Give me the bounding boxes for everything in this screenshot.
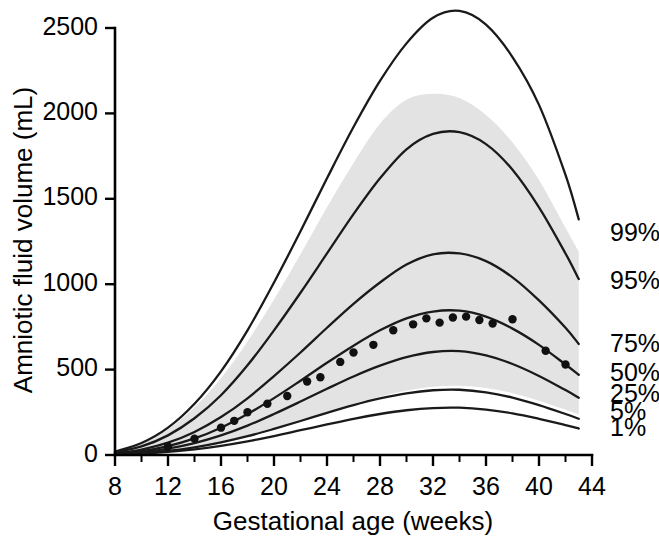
scatter-point — [369, 341, 377, 349]
percentile-label-1pct: 1% — [610, 413, 646, 441]
scatter-point — [389, 326, 397, 334]
percentile-label-75pct: 75% — [610, 329, 659, 357]
x-tick-label: 28 — [366, 472, 394, 500]
scatter-point — [349, 348, 357, 356]
scatter-point — [243, 408, 251, 416]
y-tick-label: 500 — [56, 353, 98, 381]
scatter-point — [336, 358, 344, 366]
x-tick-label: 44 — [578, 472, 606, 500]
y-tick-label: 2500 — [42, 12, 98, 40]
x-tick-label: 40 — [525, 472, 553, 500]
x-axis-title: Gestational age (weeks) — [213, 506, 493, 536]
scatter-point — [508, 315, 516, 323]
x-tick-label: 20 — [260, 472, 288, 500]
scatter-point — [422, 314, 430, 322]
scatter-point — [462, 312, 470, 320]
scatter-point — [409, 320, 417, 328]
percentile-label-99pct: 99% — [610, 218, 659, 246]
scatter-point — [303, 377, 311, 385]
scatter-point — [283, 392, 291, 400]
x-tick-label: 36 — [472, 472, 500, 500]
y-tick-label: 2000 — [42, 97, 98, 125]
x-tick-label: 8 — [108, 472, 122, 500]
scatter-point — [316, 373, 324, 381]
scatter-point — [230, 417, 238, 425]
y-tick-label: 1500 — [42, 182, 98, 210]
scatter-point — [475, 316, 483, 324]
y-tick-label: 1000 — [42, 268, 98, 296]
percentile-labels: 99%95%75%50%25%5%1% — [610, 218, 659, 441]
x-tick-label: 12 — [154, 472, 182, 500]
chart-figure: 050010001500200025008121620242832364044 … — [0, 0, 659, 542]
y-tick-label: 0 — [84, 439, 98, 467]
scatter-point — [217, 423, 225, 431]
scatter-point — [488, 319, 496, 327]
scatter-point — [263, 400, 271, 408]
scatter-point — [435, 318, 443, 326]
y-axis-title: Amniotic fluid volume (mL) — [8, 87, 38, 393]
percentile-label-95pct: 95% — [610, 266, 659, 294]
x-tick-label: 16 — [207, 472, 235, 500]
scatter-point — [164, 442, 172, 450]
scatter-point — [190, 435, 198, 443]
x-tick-label: 24 — [313, 472, 341, 500]
scatter-point — [561, 360, 569, 368]
scatter-point — [449, 313, 457, 321]
scatter-point — [541, 347, 549, 355]
x-tick-label: 32 — [419, 472, 447, 500]
amniotic-fluid-percentile-chart: 050010001500200025008121620242832364044 … — [0, 0, 659, 542]
